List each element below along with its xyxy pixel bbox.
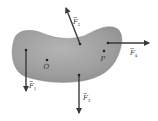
force-f1-origin-dot — [25, 49, 28, 52]
force-f4-label: F4 — [129, 49, 138, 58]
force-f1-label: F1 — [28, 82, 36, 91]
rigid-body-shape — [12, 27, 122, 83]
force-diagram: F1 F2 F3 F4 P O — [0, 0, 158, 121]
force-f2-origin-dot — [79, 43, 82, 46]
point-p-dot — [103, 50, 106, 53]
force-f3-origin-dot — [78, 74, 81, 77]
point-o-dot — [46, 59, 49, 62]
force-f4-origin-dot — [107, 42, 110, 45]
point-p-label: P — [100, 55, 106, 63]
force-f3-label: F3 — [82, 94, 91, 103]
point-o-label: O — [44, 63, 50, 71]
force-f2-label: F2 — [72, 18, 81, 27]
